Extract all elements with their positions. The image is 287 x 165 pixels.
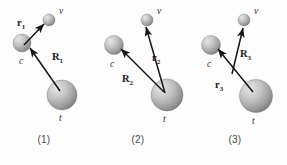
vector-label-r3: r3 — [215, 79, 224, 93]
panel-3: vctR3r3 — [202, 6, 273, 126]
sphere-v — [238, 14, 250, 26]
vector-label-r2: r2 — [152, 52, 161, 66]
body-label-v: v — [59, 6, 64, 16]
vector-label-R3: R3 — [240, 48, 252, 62]
panel-caption-3: (3) — [215, 134, 255, 145]
sphere-c — [202, 36, 221, 55]
vector-label-r1: r1 — [17, 17, 26, 31]
panel-2: vctr2R2 — [105, 6, 184, 124]
vector-label-R1: R1 — [52, 51, 64, 65]
sphere-v — [141, 14, 153, 26]
sphere-c — [105, 36, 124, 55]
panel-caption-2: (2) — [118, 134, 158, 145]
body-label-c: c — [19, 56, 24, 66]
vector-r1 — [24, 24, 44, 45]
body-label-c: c — [110, 59, 115, 69]
sphere-c — [13, 34, 31, 52]
sphere-t — [240, 80, 273, 113]
body-label-c: c — [207, 59, 212, 69]
body-label-t: t — [252, 116, 255, 126]
body-label-v: v — [254, 6, 259, 16]
vector-label-R2: R2 — [122, 73, 134, 87]
panel-caption-1: (1) — [24, 134, 64, 145]
vector-R2 — [121, 49, 164, 92]
three-body-jacobi-diagram: vctr1R1vctr2R2vctR3r3 (1) (2) (3) — [0, 0, 287, 165]
body-label-t: t — [163, 114, 166, 124]
sphere-v — [43, 14, 55, 26]
body-label-v: v — [157, 6, 162, 16]
body-label-t: t — [59, 113, 62, 123]
sphere-t — [47, 80, 77, 110]
panel-1: vctr1R1 — [13, 6, 77, 123]
